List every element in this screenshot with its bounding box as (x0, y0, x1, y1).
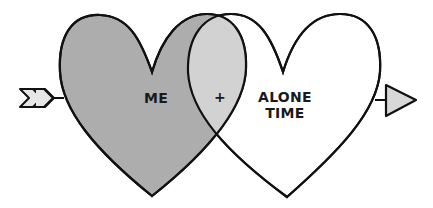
arrow-fletching-icon (20, 89, 54, 107)
arrowhead-icon (386, 85, 416, 116)
label-alone: ALONE (250, 89, 320, 105)
label-plus: + (212, 89, 228, 105)
label-me: ME (136, 90, 176, 106)
label-time: TIME (250, 105, 320, 121)
